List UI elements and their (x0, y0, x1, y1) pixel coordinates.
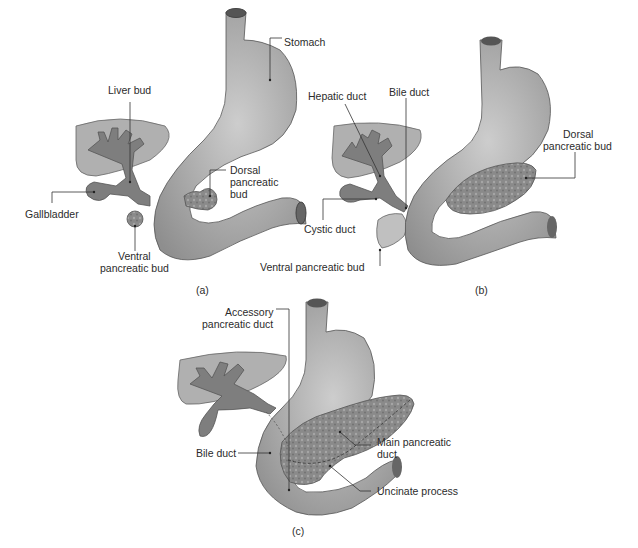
label-ventral-bud-b: Ventral pancreatic bud (260, 261, 365, 273)
duodenum-opening-b (547, 216, 557, 238)
duodenum-opening (296, 202, 306, 224)
stomach-a (154, 12, 306, 260)
label-ventral-bud-2: pancreatic bud (100, 262, 169, 274)
label-accessory-duct-1: Accessory (225, 306, 274, 318)
panel-a: Stomach Liver bud Gallbladder Ventral pa… (25, 9, 326, 297)
stomach-b (405, 40, 556, 265)
caption-a: (a) (196, 284, 209, 296)
label-main-duct-2: duct (377, 448, 397, 460)
label-hepatic-duct: Hepatic duct (308, 90, 366, 102)
esophagus-opening-c (307, 299, 327, 308)
label-dorsal-bud-1: Dorsal (230, 164, 260, 176)
label-uncinate: Uncinate process (377, 485, 458, 497)
ventral-pancreatic-bud-b (377, 214, 407, 248)
label-bile-duct-b: Bile duct (389, 86, 429, 98)
caption-b: (b) (475, 284, 488, 296)
label-main-duct-1: Main pancreatic (377, 436, 451, 448)
label-ventral-bud-1: Ventral (118, 250, 151, 262)
panel-b: Hepatic duct Bile duct Cystic duct Ventr… (260, 37, 612, 297)
label-dorsal-bud-2: pancreatic (230, 176, 278, 188)
esophagus-opening (226, 9, 246, 18)
panel-c: Accessory pancreatic duct Bile duct Main… (178, 299, 458, 538)
label-stomach: Stomach (284, 36, 326, 48)
label-dorsal-bud-3: bud (230, 188, 248, 200)
label-dorsal-bud-b-2: pancreatic bud (543, 140, 612, 152)
label-cystic-duct: Cystic duct (304, 223, 355, 235)
pancreas-development-diagram: Stomach Liver bud Gallbladder Ventral pa… (0, 0, 638, 548)
ventral-pancreatic-bud-a (127, 211, 143, 227)
label-gallbladder: Gallbladder (25, 208, 79, 220)
label-accessory-duct-2: pancreatic duct (202, 318, 273, 330)
esophagus-opening-b (481, 37, 501, 46)
caption-c: (c) (292, 525, 304, 537)
label-dorsal-bud-b-1: Dorsal (563, 128, 593, 140)
label-bile-duct-c: Bile duct (196, 447, 236, 459)
label-liver-bud: Liver bud (108, 84, 151, 96)
